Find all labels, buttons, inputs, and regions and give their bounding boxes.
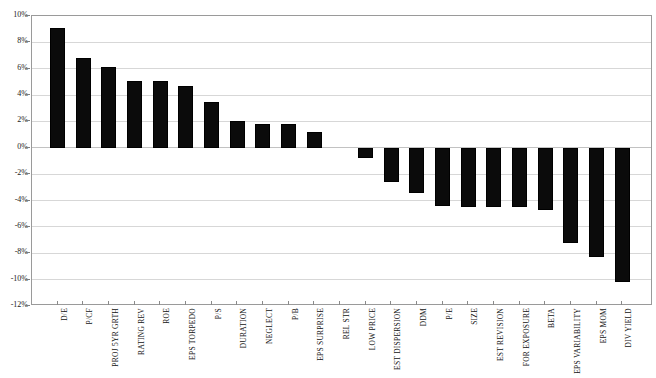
gridline bbox=[32, 226, 651, 227]
bar bbox=[76, 58, 91, 148]
bar bbox=[178, 86, 193, 148]
bar bbox=[101, 67, 116, 147]
factor-return-bar-chart: D/EP/CFPROJ 5YR GRTHRATING REVROEEPS TOR… bbox=[0, 0, 656, 378]
x-tick-mark bbox=[185, 301, 186, 305]
y-tick-mark bbox=[25, 41, 30, 42]
x-tick-label: ROE bbox=[162, 308, 171, 324]
x-tick-mark bbox=[621, 301, 622, 305]
y-tick-mark bbox=[25, 15, 30, 16]
x-tick-mark bbox=[313, 301, 314, 305]
x-tick-label: PROJ 5YR GRTH bbox=[111, 308, 120, 367]
x-tick-mark bbox=[570, 301, 571, 305]
y-tick-mark bbox=[25, 68, 30, 69]
bar bbox=[384, 148, 399, 182]
bar bbox=[204, 102, 219, 148]
gridline bbox=[32, 95, 651, 96]
x-tick-mark bbox=[544, 301, 545, 305]
bar bbox=[409, 148, 424, 193]
x-tick-mark bbox=[159, 301, 160, 305]
y-tick-mark bbox=[25, 173, 30, 174]
chart-title bbox=[0, 0, 656, 4]
gridline bbox=[32, 279, 651, 280]
bar bbox=[615, 148, 630, 282]
x-tick-label: P/E bbox=[445, 308, 454, 320]
x-tick-label: P/S bbox=[214, 308, 223, 319]
x-tick-label: EPS MOM bbox=[599, 308, 608, 343]
x-tick-label: BETA bbox=[547, 308, 556, 328]
bar bbox=[281, 124, 296, 148]
gridline bbox=[32, 253, 651, 254]
y-tick-mark bbox=[25, 94, 30, 95]
y-tick-mark bbox=[25, 226, 30, 227]
y-tick-mark bbox=[25, 200, 30, 201]
x-tick-mark bbox=[134, 301, 135, 305]
bar bbox=[127, 81, 142, 148]
x-tick-mark bbox=[236, 301, 237, 305]
x-tick-mark bbox=[416, 301, 417, 305]
bar bbox=[358, 148, 373, 159]
x-tick-mark bbox=[288, 301, 289, 305]
x-tick-label: P/CF bbox=[85, 308, 94, 324]
x-tick-mark bbox=[596, 301, 597, 305]
x-tick-label: RATING REV bbox=[137, 308, 146, 355]
x-tick-label: EPS VARIABILITY bbox=[573, 308, 582, 374]
x-tick-mark bbox=[493, 301, 494, 305]
bar bbox=[461, 148, 476, 207]
bar bbox=[512, 148, 527, 207]
x-tick-label: FOR EXPOSURE bbox=[522, 308, 531, 366]
x-tick-label: LOW PRICE bbox=[368, 308, 377, 350]
x-tick-mark bbox=[365, 301, 366, 305]
x-tick-label: EST REVISION bbox=[496, 308, 505, 361]
x-tick-label: DIV YIELD bbox=[624, 308, 633, 348]
x-axis: D/EP/CFPROJ 5YR GRTHRATING REVROEEPS TOR… bbox=[31, 306, 652, 378]
x-tick-mark bbox=[442, 301, 443, 305]
bar bbox=[153, 81, 168, 148]
x-tick-mark bbox=[82, 301, 83, 305]
x-tick-mark bbox=[390, 301, 391, 305]
gridline bbox=[32, 174, 651, 175]
y-tick-mark bbox=[25, 120, 30, 121]
x-tick-label: D/E bbox=[60, 308, 69, 321]
x-tick-mark bbox=[57, 301, 58, 305]
y-tick-mark bbox=[25, 252, 30, 253]
gridline bbox=[32, 121, 651, 122]
x-tick-mark bbox=[211, 301, 212, 305]
gridline bbox=[32, 42, 651, 43]
bar bbox=[230, 121, 245, 147]
x-tick-label: DURATION bbox=[239, 308, 248, 348]
bar bbox=[50, 28, 65, 148]
x-tick-mark bbox=[108, 301, 109, 305]
x-tick-label: DDM bbox=[419, 308, 428, 326]
gridline bbox=[32, 68, 651, 69]
zero-gridline bbox=[32, 147, 651, 148]
x-tick-label: EPS TORPEDO bbox=[188, 308, 197, 360]
x-tick-mark bbox=[339, 301, 340, 305]
x-tick-mark bbox=[467, 301, 468, 305]
bar bbox=[307, 132, 322, 148]
x-tick-label: SIZE bbox=[470, 308, 479, 325]
bar bbox=[486, 148, 501, 207]
x-tick-mark bbox=[262, 301, 263, 305]
bar bbox=[563, 148, 578, 243]
y-tick-mark bbox=[25, 279, 30, 280]
gridline bbox=[32, 200, 651, 201]
bar bbox=[255, 124, 270, 148]
x-tick-label: REL STR bbox=[342, 308, 351, 339]
bar bbox=[589, 148, 604, 257]
y-tick-mark bbox=[25, 305, 30, 306]
x-tick-label: P/B bbox=[291, 308, 300, 320]
x-tick-mark bbox=[519, 301, 520, 305]
x-tick-label: NEGLECT bbox=[265, 308, 274, 344]
bar bbox=[538, 148, 553, 210]
x-tick-label: EST DISPERSION bbox=[393, 308, 402, 370]
x-tick-label: EPS SURPRISE bbox=[316, 308, 325, 361]
bar bbox=[435, 148, 450, 206]
y-tick-mark bbox=[25, 147, 30, 148]
plot-area bbox=[31, 15, 652, 305]
